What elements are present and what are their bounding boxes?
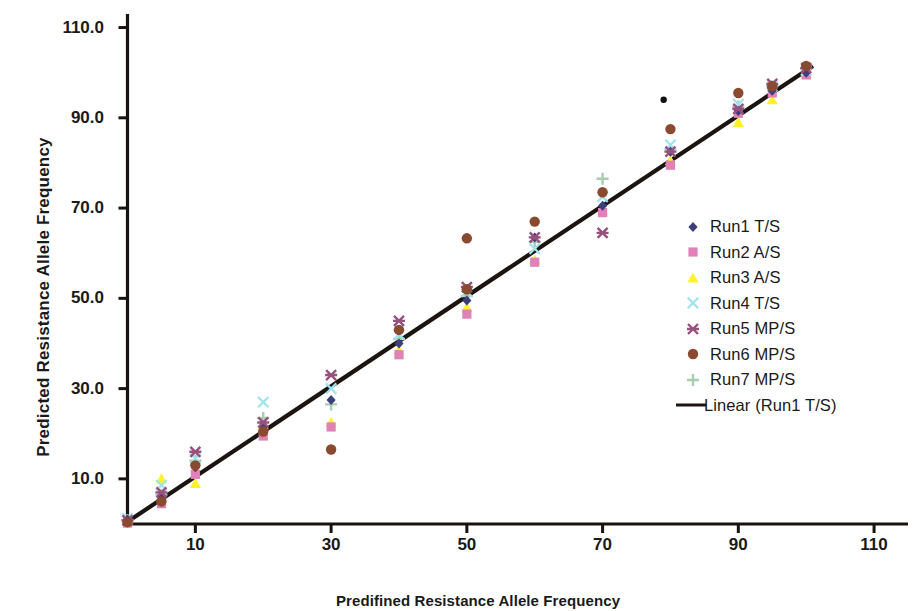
marker-circle [665,124,675,134]
legend-glyph [682,241,704,263]
data-point [687,374,699,386]
data-point [190,460,200,470]
data-point [688,349,698,359]
legend-label: Linear (Run1 T/S) [704,396,837,415]
marker-star [687,324,699,334]
data-point [733,88,743,98]
data-point [767,81,777,91]
legend-glyph [682,343,704,365]
data-point [666,161,675,170]
data-point [597,228,609,238]
data-point [327,422,336,431]
data-point [687,272,698,282]
data-point [530,258,539,267]
data-point [688,248,697,257]
marker-plus [687,374,699,386]
marker-x [688,298,698,308]
data-point [394,325,404,335]
data-point [688,298,698,308]
data-point [462,284,472,294]
data-point [258,426,268,436]
legend-marker-line-icon [676,394,706,416]
marker-circle [801,61,811,71]
marker-square [394,350,403,359]
data-point [597,173,609,185]
legend-label: Run7 MP/S [710,370,795,389]
marker-circle [156,496,166,506]
marker-triangle [687,272,698,282]
data-point [122,517,132,527]
data-point [597,187,607,197]
data-point [530,216,540,226]
marker-circle [190,460,200,470]
marker-square [688,248,697,257]
legend-item[interactable]: Run2 A/S [676,240,920,266]
legend-item[interactable]: Linear (Run1 T/S) [676,393,920,419]
legend-item[interactable]: Run6 MP/S [676,342,920,368]
marker-circle [462,233,472,243]
marker-circle [122,517,132,527]
legend-label: Run6 MP/S [710,345,795,364]
data-point [393,316,405,326]
legend-item[interactable]: Run7 MP/S [676,367,920,393]
data-point [687,324,699,334]
marker-circle [462,284,472,294]
x-axis-title: Predifined Resistance Allele Frequency [128,592,828,609]
scatter-chart: Predicted Resistance Allele Frequency 10… [0,0,924,611]
legend-glyph [682,216,704,238]
data-point [801,61,811,71]
legend-marker-x-thin-icon [676,292,710,314]
legend-item[interactable]: Run5 MP/S [676,316,920,342]
data-point [325,370,337,380]
legend-item[interactable]: Run3 A/S [676,265,920,291]
series-outlier [660,97,666,103]
legend-glyph [682,318,704,340]
legend-marker-diamond-icon [676,216,710,238]
chart-legend: Run1 T/SRun2 A/SRun3 A/SRun4 T/SRun5 MP/… [676,214,920,418]
legend-label: Run4 T/S [710,294,780,313]
legend-marker-plus-icon [676,369,710,391]
marker-star [393,316,405,326]
marker-square [666,161,675,170]
legend-glyph [682,267,704,289]
marker-star [325,370,337,380]
marker-circle [530,216,540,226]
data-point [258,397,268,407]
legend-label: Run5 MP/S [710,319,795,338]
marker-dot [660,97,666,103]
data-point [660,97,666,103]
legend-glyph [682,292,704,314]
legend-item[interactable]: Run1 T/S [676,214,920,240]
legend-item[interactable]: Run4 T/S [676,291,920,317]
marker-diamond [688,222,697,232]
data-point [394,350,403,359]
legend-marker-triangle-icon [676,267,710,289]
marker-square [327,422,336,431]
legend-line-swatch [676,404,706,407]
legend-label: Run3 A/S [710,268,781,287]
data-point [688,222,697,232]
data-point [326,444,336,454]
marker-x [258,397,268,407]
legend-label: Run2 A/S [710,243,781,262]
marker-circle [688,349,698,359]
marker-circle [597,187,607,197]
data-point [462,233,472,243]
marker-circle [767,81,777,91]
data-point [156,496,166,506]
data-point [462,310,471,319]
legend-label: Run1 T/S [710,217,780,236]
marker-square [530,258,539,267]
marker-star [597,228,609,238]
marker-plus [597,173,609,185]
legend-marker-star-icon [676,318,710,340]
marker-circle [733,88,743,98]
legend-marker-square-icon [676,241,710,263]
marker-circle [394,325,404,335]
marker-square [462,310,471,319]
legend-marker-circle-icon [676,343,710,365]
legend-glyph [682,369,704,391]
marker-circle [258,426,268,436]
data-point [665,124,675,134]
marker-circle [326,444,336,454]
